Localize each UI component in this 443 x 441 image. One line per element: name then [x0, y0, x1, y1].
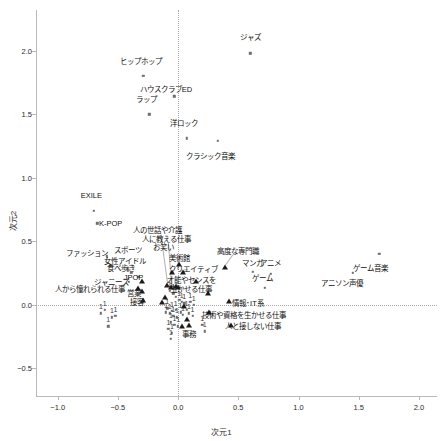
point-label: ゲーム音楽: [353, 263, 388, 272]
x-axis-spine: [36, 396, 437, 397]
data-point-triangle: [181, 304, 187, 309]
x-tick-mark: [359, 396, 360, 400]
data-point-square: [352, 272, 354, 274]
point-label: クラシック音楽: [186, 152, 235, 161]
data-point-square: [193, 303, 195, 305]
data-point-square: [107, 325, 109, 327]
point-label: ファッション: [66, 248, 108, 257]
point-label: 人と接しない仕事: [225, 322, 281, 331]
point-label: 人から憧れられる仕事: [55, 285, 125, 294]
data-point-square: [111, 316, 113, 318]
x-tick-mark: [118, 396, 119, 400]
point-label: 技術や資格を生かせる仕事: [202, 310, 286, 319]
correspondence-analysis-chart: −1.0−0.50.00.51.01.52.02.01.51.00.50.0−0…: [0, 0, 443, 441]
y-tick-label: 2.0: [6, 46, 32, 55]
x-tick-label: 0.0: [173, 403, 183, 412]
x-tick-label: 1.5: [354, 403, 364, 412]
data-point-triangle: [173, 283, 179, 288]
y-tick-mark: [32, 178, 36, 179]
y-tick-label: −0.5: [6, 364, 32, 373]
point-label: ジャズ: [240, 32, 261, 41]
y-tick-label: 1.0: [6, 173, 32, 182]
y-tick-mark: [32, 51, 36, 52]
x-tick-label: −0.5: [110, 403, 125, 412]
x-tick-mark: [238, 396, 239, 400]
point-count-label: 1: [191, 305, 195, 314]
point-label: 人の世話や介護: [133, 225, 182, 234]
point-count-label: 1: [103, 298, 107, 307]
point-label: アニソン声優: [321, 278, 363, 287]
data-point-square: [100, 312, 102, 314]
reference-line-vertical: [178, 10, 179, 396]
data-point-triangle: [193, 278, 199, 283]
point-count-label: 1: [176, 315, 180, 324]
point-label: ヒップホップ: [120, 56, 162, 65]
y-tick-label: 0.0: [6, 300, 32, 309]
point-label: お笑い: [153, 243, 174, 252]
data-point-triangle: [184, 316, 190, 321]
point-label: クリエイティブ: [169, 265, 218, 274]
data-point-square: [93, 209, 95, 211]
data-point-square: [103, 308, 105, 310]
point-label: 食べ歩き: [107, 263, 135, 272]
x-tick-mark: [58, 396, 59, 400]
data-point-triangle: [186, 323, 192, 328]
plot-area: −1.0−0.50.00.51.01.52.02.01.51.00.50.0−0…: [0, 0, 443, 441]
data-point-square: [173, 95, 175, 97]
x-tick-label: 0.5: [233, 403, 243, 412]
data-point-square: [378, 253, 380, 255]
x-tick-label: 2.0: [414, 403, 424, 412]
data-point-triangle: [135, 286, 141, 291]
data-point-square: [264, 287, 266, 289]
y-tick-mark: [32, 241, 36, 242]
point-count-label: 1: [106, 315, 110, 324]
point-label: ラップ: [136, 94, 157, 103]
y-tick-label: 0.5: [6, 237, 32, 246]
x-tick-mark: [299, 396, 300, 400]
point-label: EXILE: [81, 191, 102, 200]
y-axis-title: 次元2: [7, 210, 18, 230]
point-label: ハウスクラブED: [140, 84, 192, 93]
data-point-square: [191, 315, 193, 317]
data-point-triangle: [179, 324, 185, 329]
point-count-label: 1: [192, 293, 196, 302]
data-point-triangle: [139, 278, 145, 283]
point-label: 人に教える仕事: [142, 234, 191, 243]
point-label: アニメ: [260, 258, 281, 267]
data-point-square: [203, 330, 205, 332]
x-tick-label: −1.0: [50, 403, 65, 412]
point-label: 洋ロック: [170, 119, 198, 128]
point-count-label: 1: [114, 305, 118, 314]
data-point-triangle: [140, 297, 146, 302]
point-label: 情報･IT系: [232, 299, 264, 308]
x-tick-label: 1.0: [293, 403, 303, 412]
data-point-triangle: [159, 300, 165, 305]
point-label: スポーツ: [114, 245, 142, 254]
y-tick-label: 1.5: [6, 110, 32, 119]
data-point-square: [148, 113, 150, 115]
y-tick-mark: [32, 368, 36, 369]
data-point-square: [165, 311, 167, 313]
point-label: 高度な専門職: [217, 247, 259, 256]
point-count-label: 1: [169, 327, 173, 336]
point-label: 事務: [182, 329, 196, 338]
data-point-square: [142, 75, 144, 77]
data-point-square: [185, 137, 187, 139]
data-point-triangle: [222, 264, 228, 269]
y-tick-mark: [32, 114, 36, 115]
x-tick-mark: [419, 396, 420, 400]
y-tick-mark: [32, 305, 36, 306]
point-label: ゲーム: [252, 273, 273, 282]
point-label: 美術館: [169, 253, 190, 262]
point-count-label: 1: [99, 302, 103, 311]
y-axis-spine: [36, 10, 37, 396]
data-point-square: [252, 270, 254, 272]
data-point-triangle: [226, 299, 232, 304]
x-axis-title: 次元1: [0, 426, 443, 437]
data-point-square: [249, 52, 251, 54]
data-point-square: [217, 140, 219, 142]
point-count-label: 1: [203, 320, 207, 329]
x-tick-mark: [178, 396, 179, 400]
data-point-square: [114, 315, 116, 317]
data-point-square: [170, 338, 172, 340]
